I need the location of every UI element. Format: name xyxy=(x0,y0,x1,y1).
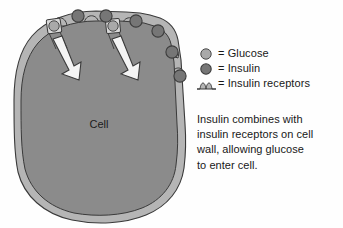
legend-row-glucose: = Glucose xyxy=(196,46,343,61)
caption-line: wall, allowing glucose xyxy=(197,142,339,157)
glucose-circle-icon xyxy=(196,46,218,61)
insulin-molecule xyxy=(152,25,164,37)
legend-row-receptors: = Insulin receptors xyxy=(196,76,343,91)
diagram-canvas: Cell = Glucose = Insulin xyxy=(0,0,343,228)
legend-label-insulin: = Insulin xyxy=(218,61,260,76)
legend: = Glucose = Insulin = Insulin receptors xyxy=(196,46,343,91)
glucose-molecule xyxy=(49,21,59,31)
caption-line: insulin receptors on cell xyxy=(197,127,339,142)
insulin-receptor-icon xyxy=(196,76,218,91)
insulin-circle-icon xyxy=(196,61,218,76)
glucose-molecule xyxy=(108,21,118,31)
caption-line: to enter cell. xyxy=(197,158,339,173)
cell-label: Cell xyxy=(90,118,109,130)
legend-label-glucose: = Glucose xyxy=(218,46,269,61)
legend-label-receptors: = Insulin receptors xyxy=(218,76,310,91)
insulin-molecule xyxy=(174,70,186,82)
legend-row-insulin: = Insulin xyxy=(196,61,343,76)
caption-paragraph: Insulin combines with insulin receptors … xyxy=(197,112,339,173)
caption-line: Insulin combines with xyxy=(197,112,339,127)
insulin-molecule xyxy=(100,10,112,22)
insulin-molecule xyxy=(130,15,142,27)
insulin-molecule xyxy=(72,10,84,22)
insulin-molecule xyxy=(166,46,178,58)
